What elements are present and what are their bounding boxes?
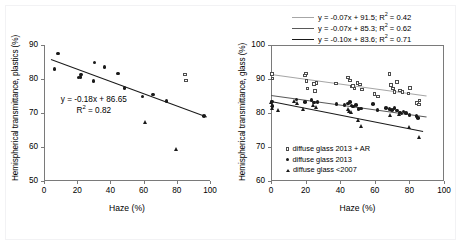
x-tick-plastics-5: [210, 181, 211, 184]
y-tick-label-plastics-4: 90: [14, 40, 38, 49]
x-tick-label-glass-0: 0: [259, 186, 283, 195]
data-point-glass-triangle-16: [407, 125, 411, 129]
y-tick-glass-1: [268, 147, 271, 148]
data-point-glass-square-9: [334, 82, 338, 86]
data-point-glass-triangle-14: [388, 113, 392, 117]
y-tick-label-plastics-1: 60: [14, 142, 38, 151]
x-tick-plastics-2: [110, 181, 111, 184]
y-tick-label-plastics-2: 70: [14, 108, 38, 117]
data-point-glass-triangle-15: [397, 112, 401, 116]
data-point-glass-square-0: [270, 72, 274, 76]
y-tick-label-glass-2: 80: [241, 108, 265, 117]
data-point-glass-circle-29: [416, 116, 420, 120]
data-point-glass-square-31: [418, 99, 422, 103]
data-point-glass-circle-27: [408, 113, 412, 117]
x-tick-plastics-0: [44, 181, 45, 184]
legend-series-label-1: diffuse glass 2013: [292, 155, 351, 164]
data-point-glass-triangle-17: [417, 135, 421, 139]
x-tick-glass-0: [271, 181, 272, 184]
data-point-glass-triangle-8: [314, 105, 318, 109]
y-tick-glass-2: [268, 113, 271, 114]
data-point-plastics-circle-11: [151, 93, 155, 97]
x-tick-label-plastics-4: 80: [165, 186, 189, 195]
legend-line-swatch-1: [292, 28, 314, 29]
legend-series-glass: diffuse glass 2013 + ARdiffuse glass 201…: [286, 144, 370, 176]
x-tick-label-plastics-5: 100: [198, 186, 222, 195]
data-point-glass-triangle-13: [359, 124, 363, 128]
legend-equation-text-2: y = -0.10x + 83.6; R2 = 0.71: [318, 35, 411, 44]
x-tick-label-glass-2: 40: [328, 186, 352, 195]
x-tick-glass-3: [375, 181, 376, 184]
x-tick-plastics-4: [177, 181, 178, 184]
data-point-plastics-triangle-1: [174, 147, 178, 151]
data-point-glass-triangle-3: [276, 108, 280, 112]
data-point-glass-square-7: [313, 89, 317, 93]
data-point-glass-circle-6: [316, 100, 320, 104]
regression-r2-plastics: R2 = 0.82: [42, 106, 146, 117]
data-point-glass-circle-17: [376, 108, 380, 112]
data-point-glass-circle-7: [335, 102, 339, 106]
regression-equation-plastics: y = -0.18x + 86.65: [42, 95, 146, 106]
data-point-glass-square-20: [388, 72, 392, 76]
data-point-glass-circle-3: [303, 100, 307, 104]
data-point-glass-triangle-2: [270, 106, 274, 110]
legend-marker-circle-icon: [286, 158, 289, 161]
chart-panel-plastics: Hemispherical transmittance, plastics (%…: [0, 0, 230, 245]
data-point-glass-square-1: [271, 77, 275, 81]
x-tick-glass-1: [306, 181, 307, 184]
legend-series-row-2: diffuse glass <2007: [286, 165, 370, 176]
data-point-glass-square-26: [401, 90, 405, 94]
data-point-glass-square-8: [315, 81, 319, 85]
data-point-glass-square-27: [407, 92, 411, 96]
data-point-glass-square-4: [305, 79, 309, 83]
data-point-plastics-circle-12: [165, 99, 169, 103]
x-axis-title-glass: Haze (%): [271, 203, 444, 213]
legend-line-swatch-0: [292, 17, 314, 18]
regression-annotation-plastics: y = -0.18x + 86.65 R2 = 0.82: [42, 95, 146, 116]
x-tick-label-plastics-3: 60: [132, 186, 156, 195]
data-point-glass-square-28: [408, 86, 412, 90]
legend-series-row-1: diffuse glass 2013: [286, 155, 370, 166]
data-point-glass-square-3: [304, 72, 308, 76]
data-point-glass-triangle-11: [349, 110, 353, 114]
x-tick-glass-5: [444, 181, 445, 184]
legend-line-swatch-2: [292, 39, 314, 40]
data-point-glass-triangle-5: [295, 101, 299, 105]
y-tick-plastics-2: [41, 113, 44, 114]
data-point-glass-circle-16: [371, 102, 375, 106]
x-axis-title-plastics: Haze (%): [44, 203, 210, 213]
x-tick-glass-2: [340, 181, 341, 184]
data-point-glass-square-23: [393, 90, 397, 94]
y-tick-label-glass-4: 100: [241, 40, 265, 49]
data-point-plastics-circle-13: [202, 114, 206, 118]
y-tick-label-plastics-3: 80: [14, 74, 38, 83]
x-tick-label-plastics-1: 20: [65, 186, 89, 195]
x-tick-plastics-1: [77, 181, 78, 184]
y-tick-label-glass-1: 70: [241, 142, 265, 151]
legend-equation-text-1: y = -0.07x + 85.3; R2 = 0.62: [318, 24, 411, 33]
data-point-glass-square-30: [417, 103, 421, 107]
y-tick-label-plastics-0: 50: [14, 176, 38, 185]
x-tick-plastics-3: [144, 181, 145, 184]
data-point-plastics-circle-1: [56, 52, 60, 56]
figure-canvas: Hemispherical transmittance, plastics (%…: [0, 0, 461, 245]
legend-marker-square-icon: [286, 147, 289, 150]
y-tick-label-glass-3: 90: [241, 74, 265, 83]
legend-series-label-0: diffuse glass 2013 + AR: [292, 144, 370, 153]
data-point-plastics-square-1: [184, 79, 188, 83]
legend-equation-row-2: y = -0.10x + 83.6; R2 = 0.71: [292, 34, 411, 45]
data-point-plastics-circle-7: [103, 65, 107, 69]
data-point-glass-square-16: [358, 83, 362, 87]
legend-equation-row-0: y = -0.07x + 91.5; R2 = 0.42: [292, 12, 411, 23]
x-tick-label-plastics-2: 40: [98, 186, 122, 195]
chart-panel-glass: Hemispherical transmittance, glass (%) H…: [230, 0, 461, 245]
data-point-glass-triangle-12: [356, 118, 360, 122]
legend-series-row-0: diffuse glass 2013 + AR: [286, 144, 370, 155]
data-point-plastics-square-0: [183, 73, 187, 77]
x-tick-label-glass-1: 20: [294, 186, 318, 195]
legend-equation-text-0: y = -0.07x + 91.5; R2 = 0.42: [318, 13, 411, 22]
data-point-glass-triangle-6: [301, 107, 305, 111]
legend-series-label-2: diffuse glass <2007: [293, 165, 357, 174]
data-point-glass-square-11: [348, 79, 352, 83]
y-tick-plastics-4: [41, 45, 44, 46]
